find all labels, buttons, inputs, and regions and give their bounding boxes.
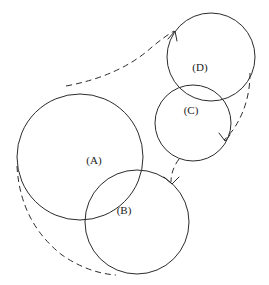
circle-group <box>17 13 255 274</box>
circle-tangency-figure: (A) (B) (C) (D) <box>0 0 269 285</box>
diagram-canvas: (A) (B) (C) (D) <box>0 0 269 285</box>
dashed-arc-left <box>17 166 116 275</box>
label-circle-c: (C) <box>184 104 199 117</box>
dashed-arc-group <box>17 31 250 275</box>
circle-a <box>17 94 143 220</box>
label-circle-d: (D) <box>192 61 208 74</box>
label-group: (A) (B) (C) (D) <box>86 61 208 217</box>
label-circle-b: (B) <box>117 204 132 217</box>
circle-d <box>167 13 255 101</box>
label-circle-a: (A) <box>86 154 102 167</box>
circle-c <box>155 85 231 161</box>
dashed-arc-top <box>66 31 174 86</box>
circle-b <box>85 170 189 274</box>
